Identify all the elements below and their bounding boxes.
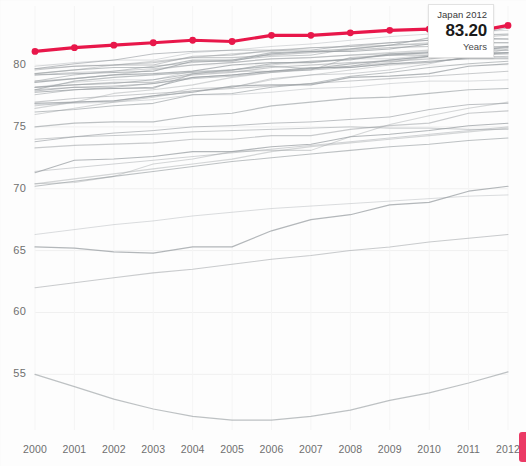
right-edge-red-marker[interactable] xyxy=(519,432,526,462)
x-tick-label: 2005 xyxy=(212,443,252,455)
highlight-point-marker xyxy=(189,37,196,44)
highlight-point-marker xyxy=(386,27,393,34)
y-tick-label: 55 xyxy=(2,367,26,379)
x-tick-label: 2007 xyxy=(291,443,331,455)
x-tick-label: 2002 xyxy=(94,443,134,455)
x-tick-label: 2000 xyxy=(15,443,55,455)
tooltip-japan-2012: Japan 2012 83.20 Years xyxy=(428,4,494,58)
y-tick-label: 80 xyxy=(2,58,26,70)
tooltip-units: Years xyxy=(433,41,487,53)
highlight-point-marker xyxy=(150,39,157,46)
y-tick-label: 65 xyxy=(2,244,26,256)
highlight-point-marker xyxy=(308,32,315,39)
highlight-point-marker xyxy=(71,44,78,51)
life-expectancy-line-chart: 807570656055 200020012002200320042005200… xyxy=(0,0,526,466)
y-tick-label: 70 xyxy=(2,182,26,194)
x-tick-label: 2006 xyxy=(252,443,292,455)
highlight-point-marker xyxy=(229,38,236,45)
highlight-point-marker xyxy=(32,48,39,55)
y-tick-label: 75 xyxy=(2,120,26,132)
highlight-point-marker xyxy=(110,42,117,49)
highlight-point-marker xyxy=(268,32,275,39)
highlight-point-marker xyxy=(347,29,354,36)
plot-area[interactable] xyxy=(0,0,526,466)
x-tick-label: 2010 xyxy=(409,443,449,455)
tooltip-title: Japan 2012 xyxy=(433,9,487,21)
x-tick-label: 2008 xyxy=(330,443,370,455)
x-tick-label: 2011 xyxy=(449,443,489,455)
x-gridlines xyxy=(35,6,508,430)
highlight-point-marker xyxy=(505,22,512,29)
x-tick-label: 2001 xyxy=(54,443,94,455)
x-tick-label: 2003 xyxy=(133,443,173,455)
x-tick-label: 2004 xyxy=(173,443,213,455)
tooltip-value: 83.20 xyxy=(433,21,487,41)
x-tick-label: 2009 xyxy=(370,443,410,455)
y-tick-label: 60 xyxy=(2,305,26,317)
